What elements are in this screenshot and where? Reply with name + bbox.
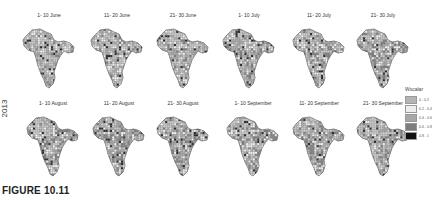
map-panel: 1- 10 June <box>18 12 80 90</box>
map-panel: 21- 30 June <box>152 12 214 90</box>
choropleth-map <box>222 110 284 178</box>
panel-title: 1- 10 August <box>22 100 84 106</box>
map-panel: 11- 20 June <box>86 12 148 90</box>
choropleth-map <box>352 22 414 90</box>
panel-title: 11- 20 June <box>86 12 148 18</box>
choropleth-map <box>152 110 214 178</box>
panel-title: 21- 30 June <box>152 12 214 18</box>
legend-item: 0.8 - 1 <box>405 132 437 140</box>
legend-swatch <box>405 123 417 131</box>
map-panel: 21- 30 August <box>152 100 214 178</box>
map-panel: 1- 10 August <box>22 100 84 178</box>
panel-title: 21- 30 August <box>152 100 214 106</box>
panel-title: 11- 20 August <box>88 100 150 106</box>
legend-item: 0.2 - 0.4 <box>405 105 437 113</box>
legend-label: 0.6 - 0.8 <box>419 125 432 129</box>
legend-label: 0.2 - 0.4 <box>419 107 432 111</box>
panel-title: 1- 10 June <box>18 12 80 18</box>
legend-items: 0 - 0.20.2 - 0.40.4 - 0.60.6 - 0.80.8 - … <box>405 96 437 140</box>
panel-title: 11- 20 September <box>288 100 350 106</box>
choropleth-map <box>218 22 280 90</box>
year-label: 2013 <box>2 98 14 122</box>
choropleth-map <box>18 22 80 90</box>
legend-label: 0 - 0.2 <box>419 98 429 102</box>
choropleth-map <box>88 110 150 178</box>
legend-item: 0 - 0.2 <box>405 96 437 104</box>
legend-item: 0.4 - 0.6 <box>405 114 437 122</box>
year-text: 2013 <box>0 100 9 118</box>
choropleth-map <box>288 110 350 178</box>
map-panel: 11- 20 July <box>288 12 350 90</box>
legend-swatch <box>405 96 417 104</box>
map-panel: 11- 20 August <box>88 100 150 178</box>
legend-label: 0.4 - 0.6 <box>419 116 432 120</box>
legend-title: Wscalar <box>405 86 437 92</box>
choropleth-map <box>86 22 148 90</box>
choropleth-map <box>22 110 84 178</box>
choropleth-map <box>152 22 214 90</box>
map-panel: 1- 10 September <box>222 100 284 178</box>
panel-title: 21- 30 July <box>352 12 414 18</box>
choropleth-map <box>288 22 350 90</box>
legend-swatch <box>405 114 417 122</box>
panel-title: 11- 20 July <box>288 12 350 18</box>
map-panel: 21- 30 July <box>352 12 414 90</box>
map-panel: 11- 20 September <box>288 100 350 178</box>
figure-caption: FIGURE 10.11 <box>2 185 69 196</box>
legend-swatch <box>405 105 417 113</box>
legend-swatch <box>405 132 417 140</box>
legend-label: 0.8 - 1 <box>419 134 429 138</box>
legend-item: 0.6 - 0.8 <box>405 123 437 131</box>
panel-title: 1- 10 September <box>222 100 284 106</box>
panel-title: 1- 10 July <box>218 12 280 18</box>
legend: Wscalar 0 - 0.20.2 - 0.40.4 - 0.60.6 - 0… <box>405 86 437 141</box>
map-panel: 1- 10 July <box>218 12 280 90</box>
